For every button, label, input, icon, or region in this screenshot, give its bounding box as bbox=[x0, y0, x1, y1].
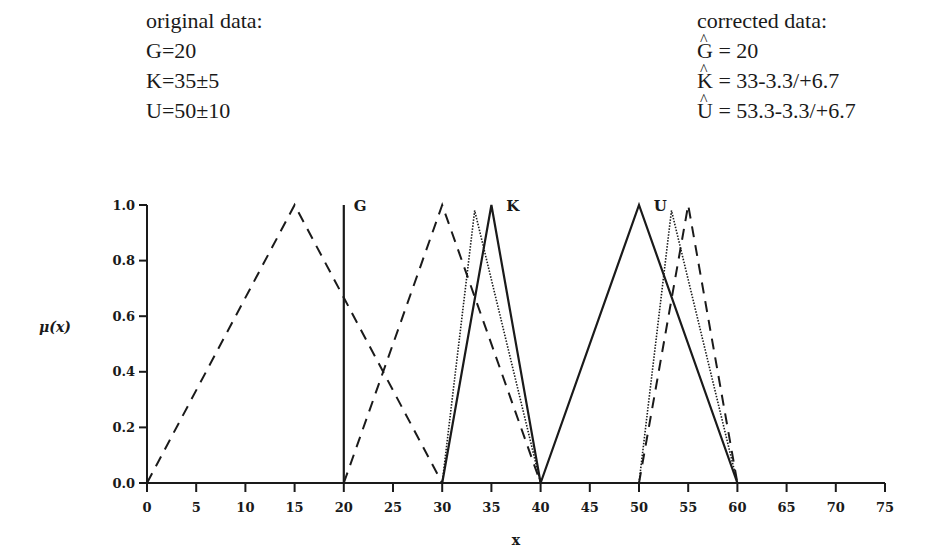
y-axis-label: μ(x) bbox=[39, 319, 71, 335]
y-tick-label: 0.4 bbox=[112, 364, 135, 379]
x-tick-label: 65 bbox=[778, 500, 796, 515]
y-tick-label: 0.6 bbox=[112, 309, 135, 324]
membership-chart: 0.00.20.40.60.81.00510152025303540455055… bbox=[0, 0, 951, 560]
x-tick-label: 0 bbox=[142, 500, 151, 515]
axes bbox=[139, 205, 885, 492]
curve-label-u: U bbox=[654, 197, 667, 215]
curve-dashed-2 bbox=[344, 205, 541, 483]
y-tick-label: 0.0 bbox=[112, 476, 135, 491]
x-tick-label: 10 bbox=[236, 500, 254, 515]
x-tick-label: 55 bbox=[679, 500, 697, 515]
curve-label-g: G bbox=[354, 197, 367, 215]
x-tick-label: 50 bbox=[630, 500, 648, 515]
curve-label-k: K bbox=[506, 197, 520, 215]
x-tick-label: 70 bbox=[827, 500, 845, 515]
x-tick-label: 75 bbox=[876, 500, 894, 515]
x-axis-label: x bbox=[512, 532, 521, 548]
x-tick-label: 35 bbox=[482, 500, 500, 515]
x-tick-label: 5 bbox=[192, 500, 201, 515]
x-tick-label: 45 bbox=[581, 500, 599, 515]
y-tick-label: 0.2 bbox=[112, 420, 135, 435]
x-tick-label: 60 bbox=[728, 500, 746, 515]
labels: 0.00.20.40.60.81.00510152025303540455055… bbox=[39, 197, 894, 548]
y-tick-label: 0.8 bbox=[112, 253, 135, 268]
curve-u bbox=[541, 205, 738, 483]
curve-dashed-1 bbox=[147, 205, 442, 483]
x-tick-label: 20 bbox=[335, 500, 353, 515]
x-tick-label: 15 bbox=[286, 500, 304, 515]
x-tick-label: 30 bbox=[433, 500, 451, 515]
curves bbox=[147, 205, 737, 483]
x-tick-label: 40 bbox=[532, 500, 550, 515]
y-tick-label: 1.0 bbox=[112, 198, 135, 213]
x-tick-label: 25 bbox=[384, 500, 402, 515]
